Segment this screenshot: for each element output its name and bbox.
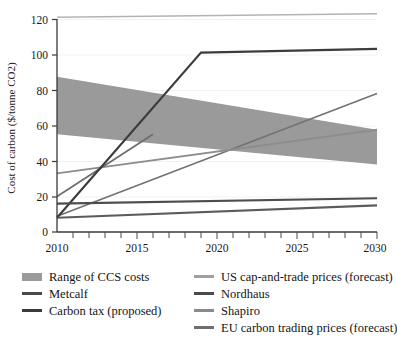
y-axis-ticks (52, 20, 57, 233)
chart-legend: Range of CCS costs Metcalf Carbon tax (p… (0, 268, 392, 343)
y-tick-label-60: 60 (37, 120, 49, 132)
x-tick-label-2020: 2020 (206, 242, 229, 254)
series-line-eu-carbon-trading (57, 134, 153, 196)
x-tick-label-2015: 2015 (126, 242, 149, 254)
chart-plot-area: 120 100 80 60 40 20 0 2010 2015 2020 202… (0, 0, 392, 270)
x-tick-label-2025: 2025 (286, 242, 309, 254)
y-tick-label-120: 120 (31, 14, 49, 26)
legend-label-eu-carbon-trading-prices: EU carbon trading prices (forecast) (221, 321, 397, 335)
series-line-nordhaus (57, 205, 377, 217)
legend-item-metcalf: Metcalf (22, 285, 198, 302)
legend-label-us-cap-and-trade-prices: US cap-and-trade prices (forecast) (221, 270, 393, 284)
legend-item-eu-carbon-trading-prices: EU carbon trading prices (forecast) (194, 319, 392, 336)
x-axis-minor-ticks (73, 232, 377, 239)
legend-swatch-line-icon (194, 309, 214, 312)
legend-column-right: US cap-and-trade prices (forecast) Nordh… (194, 268, 392, 336)
y-tick-label-80: 80 (37, 85, 49, 97)
x-tick-label-2030: 2030 (364, 242, 387, 254)
legend-label-shapiro: Shapiro (221, 304, 260, 318)
legend-item-shapiro: Shapiro (194, 302, 392, 319)
legend-swatch-line-icon (194, 292, 214, 295)
legend-swatch-line-icon (22, 309, 42, 312)
legend-swatch-band-icon (22, 273, 42, 281)
legend-swatch-line-icon (194, 275, 214, 278)
y-tick-label-0: 0 (42, 226, 48, 238)
legend-swatch-line-icon (22, 292, 42, 295)
legend-column-left: Range of CCS costs Metcalf Carbon tax (p… (22, 268, 198, 319)
legend-swatch-line-icon (194, 326, 214, 329)
y-tick-label-100: 100 (31, 49, 49, 61)
series-line-us-cap-and-trade (57, 14, 377, 18)
y-tick-label-20: 20 (37, 191, 49, 203)
legend-label-range-of-ccs-costs: Range of CCS costs (49, 270, 149, 284)
x-tick-label-2010: 2010 (46, 242, 69, 254)
legend-label-nordhaus: Nordhaus (221, 287, 270, 301)
legend-item-us-cap-and-trade-prices: US cap-and-trade prices (forecast) (194, 268, 392, 285)
legend-label-metcalf: Metcalf (49, 287, 88, 301)
legend-item-carbon-tax-proposed: Carbon tax (proposed) (22, 302, 198, 319)
series-line-metcalf (57, 198, 377, 203)
legend-item-nordhaus: Nordhaus (194, 285, 392, 302)
y-tick-label-40: 40 (37, 156, 49, 168)
legend-label-carbon-tax-proposed: Carbon tax (proposed) (49, 304, 161, 318)
y-axis-title: Cost of carbon ($/tonne CO2) (5, 62, 18, 194)
legend-item-range-of-ccs-costs: Range of CCS costs (22, 268, 198, 285)
